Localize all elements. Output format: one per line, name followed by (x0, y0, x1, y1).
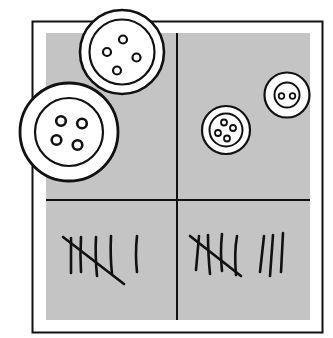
button-icon-four-hole-large (20, 83, 118, 181)
button-icon-four-hole-top (80, 10, 164, 94)
button-tally-chart (0, 0, 333, 338)
button-icon-two-hole (265, 73, 310, 118)
button-icon-four-hole-small (202, 106, 250, 154)
